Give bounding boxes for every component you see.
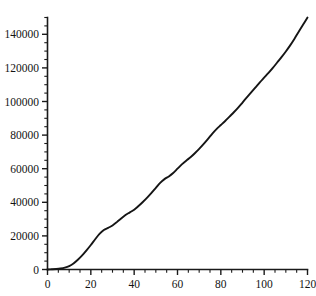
x-tick-label: 20 [85,278,97,290]
y-tick-label: 20000 [10,230,39,242]
chart-canvas: 020000400006000080000100000120000140000 … [0,0,316,296]
x-tick-label: 80 [215,278,227,290]
x-axis-major-ticks [48,270,308,276]
y-tick-label: 140000 [5,28,40,40]
x-tick-label: 120 [299,278,316,290]
y-axis-tick-labels: 020000400006000080000100000120000140000 [5,28,40,275]
x-tick-label: 40 [128,278,140,290]
y-tick-label: 120000 [5,62,40,74]
x-tick-label: 100 [256,278,274,290]
y-tick-label: 60000 [10,163,39,175]
data-series-line [48,18,308,270]
y-tick-label: 0 [33,264,39,276]
line-chart: 020000400006000080000100000120000140000 … [0,0,316,296]
x-tick-label: 60 [172,278,184,290]
y-tick-label: 40000 [10,196,39,208]
y-tick-label: 80000 [10,129,39,141]
x-axis-tick-labels: 020406080100120 [45,278,316,290]
y-tick-label: 100000 [5,96,40,108]
x-tick-label: 0 [45,278,51,290]
